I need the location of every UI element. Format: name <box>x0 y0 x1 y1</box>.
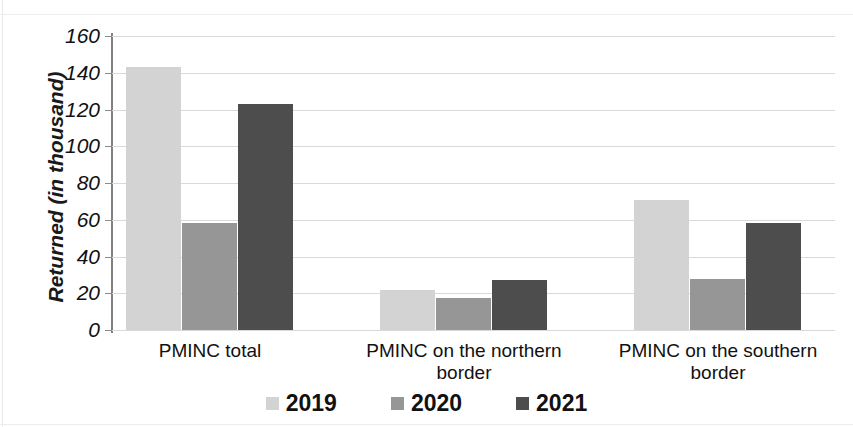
x-axis-label-line: border <box>334 362 594 384</box>
plot-area <box>112 36 835 330</box>
y-tick-80 <box>105 183 112 184</box>
y-tick-160 <box>105 36 112 37</box>
gridline-140 <box>112 73 835 74</box>
gridline-160 <box>112 36 835 37</box>
y-tick-label-160: 160 <box>0 25 100 46</box>
legend-label-2021: 2021 <box>536 392 587 415</box>
legend-swatch-icon-2019 <box>266 397 279 410</box>
gridline-60 <box>112 220 835 221</box>
legend-item-2020[interactable]: 2020 <box>391 392 462 415</box>
y-tick-40 <box>105 257 112 258</box>
y-tick-140 <box>105 73 112 74</box>
bar-2020-group-3 <box>690 279 745 330</box>
bar-2019-group-2 <box>380 290 435 330</box>
y-tick-label-80: 80 <box>0 172 100 193</box>
y-tick-120 <box>105 110 112 111</box>
y-tick-label-40: 40 <box>0 246 100 267</box>
x-axis-label-line: border <box>588 362 848 384</box>
bar-2020-group-2 <box>436 298 491 330</box>
y-tick-label-20: 20 <box>0 282 100 303</box>
legend-item-2021[interactable]: 2021 <box>516 392 587 415</box>
chart-legend: 201920202021 <box>0 392 853 415</box>
scan-edge-bottom <box>0 424 853 425</box>
x-axis-label-line: PMINC on the northern <box>334 340 594 362</box>
x-axis-label-group-3: PMINC on the southernborder <box>588 340 848 384</box>
bar-2019-group-1 <box>126 67 181 330</box>
y-tick-60 <box>105 220 112 221</box>
y-tick-label-120: 120 <box>0 99 100 120</box>
y-tick-label-140: 140 <box>0 62 100 83</box>
scan-edge-top <box>0 14 853 15</box>
y-tick-label-60: 60 <box>0 209 100 230</box>
x-axis-label-line: PMINC total <box>80 340 340 362</box>
x-axis-label-group-1: PMINC total <box>80 340 340 362</box>
gridline-100 <box>112 146 835 147</box>
bar-2019-group-3 <box>634 200 689 330</box>
gridline-0 <box>112 330 835 331</box>
y-tick-label-100: 100 <box>0 135 100 156</box>
y-tick-label-0: 0 <box>0 319 100 340</box>
gridline-80 <box>112 183 835 184</box>
legend-swatch-icon-2020 <box>391 397 404 410</box>
x-axis-label-group-2: PMINC on the northernborder <box>334 340 594 384</box>
x-axis-label-line: PMINC on the southern <box>588 340 848 362</box>
bar-2021-group-3 <box>746 223 801 330</box>
y-tick-100 <box>105 146 112 147</box>
y-tick-20 <box>105 293 112 294</box>
gridline-120 <box>112 110 835 111</box>
y-tick-0 <box>105 330 112 331</box>
bar-2021-group-2 <box>492 280 547 330</box>
legend-item-2019[interactable]: 2019 <box>266 392 337 415</box>
chart-screenshot: Returned (in thousand) 02040608010012014… <box>0 0 853 427</box>
legend-label-2020: 2020 <box>411 392 462 415</box>
bar-2020-group-1 <box>182 223 237 330</box>
legend-label-2019: 2019 <box>286 392 337 415</box>
legend-swatch-icon-2021 <box>516 397 529 410</box>
bar-2021-group-1 <box>238 104 293 330</box>
